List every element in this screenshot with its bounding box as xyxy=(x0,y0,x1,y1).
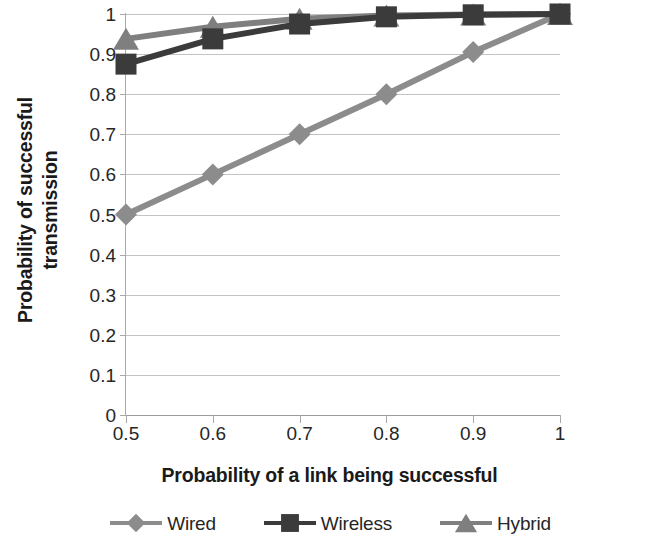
y-axis-tick-label: 0.6 xyxy=(62,165,116,184)
x-axis-tick-label: 0.8 xyxy=(373,424,399,443)
y-axis-tick-labels: 10.90.80.70.60.50.40.30.20.10 xyxy=(62,0,116,430)
plot-area xyxy=(126,14,560,415)
legend-marker-square-icon xyxy=(262,512,318,534)
y-axis-tick-label: 0.5 xyxy=(62,205,116,224)
legend-item-wireless: Wireless xyxy=(262,512,392,534)
legend-label: Hybrid xyxy=(497,514,551,533)
y-axis-tick-label: 0.4 xyxy=(62,245,116,264)
chart-container: Probability of successful transmission 1… xyxy=(0,0,659,550)
y-axis-tick-label: 0.8 xyxy=(62,85,116,104)
data-point-marker xyxy=(463,4,484,25)
legend-marker-triangle-icon xyxy=(438,512,494,534)
data-point-marker xyxy=(289,123,311,145)
x-axis-tick-label: 0.6 xyxy=(200,424,226,443)
series-hybrid xyxy=(113,3,573,50)
data-point-marker xyxy=(376,6,397,27)
y-axis-title-line-1: Probability of successful xyxy=(13,97,38,323)
x-axis-tick-mark xyxy=(386,415,387,423)
x-axis-tick-mark xyxy=(473,415,474,423)
y-axis-tick-label: 0.1 xyxy=(62,365,116,384)
x-axis-tick-label: 1 xyxy=(555,424,566,443)
series-wired xyxy=(115,3,571,226)
legend-label: Wireless xyxy=(321,514,392,533)
y-axis-tick-label: 1 xyxy=(62,5,116,24)
data-point-marker xyxy=(375,83,397,105)
data-point-marker xyxy=(289,14,310,35)
x-axis-line xyxy=(125,415,561,416)
series-line xyxy=(126,14,560,64)
x-axis-title: Probability of a link being successful xyxy=(0,464,659,487)
data-point-marker xyxy=(116,54,137,75)
x-axis-tick-mark xyxy=(560,415,561,423)
y-axis-title-line-2: transmission xyxy=(38,97,63,323)
legend-label: Wired xyxy=(167,514,216,533)
x-axis-tick-label: 0.5 xyxy=(113,424,139,443)
x-axis-tick-label: 0.7 xyxy=(286,424,312,443)
y-axis-tick-label: 0 xyxy=(62,406,116,425)
legend-item-wired: Wired xyxy=(108,512,216,534)
data-point-marker xyxy=(202,163,224,185)
x-axis-tick-mark xyxy=(126,415,127,423)
data-point-marker xyxy=(462,41,484,63)
y-axis-tick-label: 0.2 xyxy=(62,325,116,344)
data-point-marker xyxy=(115,204,137,226)
x-axis-tick-mark xyxy=(300,415,301,423)
x-axis-tick-mark xyxy=(213,415,214,423)
data-point-marker xyxy=(550,4,571,25)
x-axis-tick-labels: 0.50.60.70.80.91 xyxy=(126,424,560,452)
data-point-marker xyxy=(202,28,223,49)
y-axis-tick-label: 0.3 xyxy=(62,285,116,304)
x-axis-tick-label: 0.9 xyxy=(460,424,486,443)
legend-item-hybrid: Hybrid xyxy=(438,512,551,534)
y-axis-tick-label: 0.7 xyxy=(62,125,116,144)
chart-legend: WiredWirelessHybrid xyxy=(0,512,659,534)
legend-marker-diamond-icon xyxy=(108,512,164,534)
y-axis-tick-label: 0.9 xyxy=(62,45,116,64)
data-series-layer xyxy=(126,14,560,415)
